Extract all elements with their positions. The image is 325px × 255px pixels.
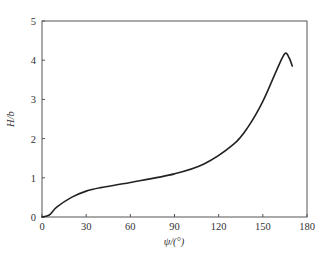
x-tick-label: 120 bbox=[211, 221, 227, 232]
x-tick-label: 0 bbox=[39, 221, 44, 232]
plot-frame bbox=[42, 21, 307, 217]
y-tick-label: 5 bbox=[31, 16, 36, 27]
y-axis-ticks: 012345 bbox=[31, 16, 45, 223]
y-axis-title: H/b bbox=[5, 111, 16, 128]
x-axis-title: ψ/(°) bbox=[164, 236, 185, 248]
y-tick-label: 1 bbox=[31, 173, 36, 184]
y-tick-label: 2 bbox=[31, 134, 36, 145]
x-tick-label: 150 bbox=[255, 221, 271, 232]
x-tick-label: 90 bbox=[169, 221, 180, 232]
y-tick-label: 3 bbox=[31, 94, 36, 105]
x-tick-label: 60 bbox=[125, 221, 136, 232]
data-line bbox=[42, 53, 292, 217]
x-tick-label: 180 bbox=[299, 221, 315, 232]
chart: 0306090120150180 012345 ψ/(°) H/b bbox=[0, 0, 325, 255]
x-tick-label: 30 bbox=[81, 221, 92, 232]
y-tick-label: 4 bbox=[31, 55, 37, 66]
y-tick-label: 0 bbox=[31, 212, 36, 223]
